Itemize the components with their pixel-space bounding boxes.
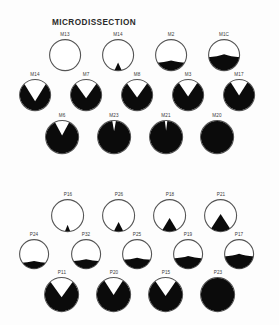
disc-cell: P24	[12, 232, 56, 270]
disc-cell: P17	[217, 232, 261, 270]
disc-cell: P19	[166, 232, 210, 270]
disc-glyph	[120, 78, 154, 112]
disc-cell: M20	[195, 113, 239, 155]
disc-cell: P11	[40, 270, 84, 313]
disc-glyph	[43, 276, 80, 313]
disc-glyph	[223, 238, 255, 270]
disc-glyph	[96, 119, 132, 155]
disc-glyph	[95, 276, 132, 313]
disc-cell: P20	[92, 270, 136, 313]
disc-cell: M7	[64, 72, 108, 112]
disc-cell: P25	[115, 232, 159, 270]
disc-cell: M17	[217, 72, 261, 112]
disc-cell: P23	[196, 270, 240, 313]
disc-cell: M8	[115, 72, 159, 112]
disc-glyph	[222, 78, 256, 112]
disc-row: M6M23M21M20	[0, 0, 279, 46]
disc-cell: M23	[92, 113, 136, 155]
panel-microdissection: MICRODISSECTION M13M14M2M1C M14M7M8M3M17…	[0, 0, 279, 172]
disc-glyph	[18, 238, 50, 270]
disc-glyph	[121, 238, 153, 270]
disc-cell: P32	[64, 232, 108, 270]
panel-plating: PLATING P16P26P18P21 P24P32P25P19P17 P11…	[0, 172, 279, 325]
disc-glyph	[199, 276, 236, 313]
disc-cell: P15	[144, 270, 188, 313]
disc-glyph	[18, 78, 52, 112]
disc-glyph	[172, 238, 204, 270]
disc-glyph	[147, 276, 184, 313]
disc-cell: M6	[40, 113, 84, 155]
disc-glyph	[70, 238, 102, 270]
disc-glyph	[44, 119, 80, 155]
disc-glyph	[199, 119, 235, 155]
figure-root: MICRODISSECTION M13M14M2M1C M14M7M8M3M17…	[0, 0, 279, 325]
disc-glyph	[148, 119, 184, 155]
disc-cell: M21	[144, 113, 188, 155]
disc-row: P11P20P15P23	[0, 172, 279, 218]
disc-cell: M14	[13, 72, 57, 112]
disc-glyph	[69, 78, 103, 112]
disc-glyph	[171, 78, 205, 112]
disc-cell: M3	[166, 72, 210, 112]
